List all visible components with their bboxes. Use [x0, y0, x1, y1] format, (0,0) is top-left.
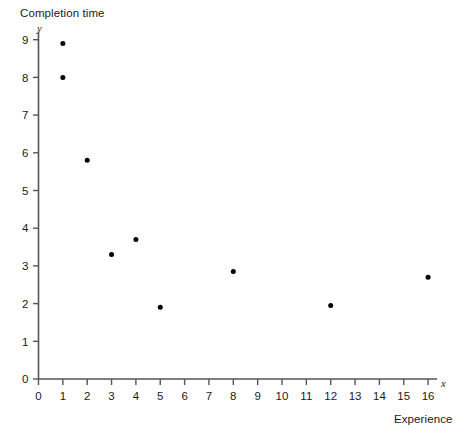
x-axis-tick-label: 3	[108, 390, 114, 402]
data-point	[328, 303, 333, 308]
y-axis-tick-label: 5	[22, 185, 28, 197]
x-axis-tick-label: 5	[157, 390, 163, 402]
x-axis-tick-label: 2	[84, 390, 90, 402]
x-axis-tick-label: 0	[35, 390, 41, 402]
x-axis-tick-label: 16	[422, 390, 435, 402]
x-axis-tick-label: 14	[373, 390, 386, 402]
y-axis-tick-label: 3	[22, 260, 28, 272]
x-axis-tick-label: 8	[230, 390, 236, 402]
x-axis-tick-label: 15	[397, 390, 410, 402]
scatter-chart: Completion time y x Experience 012345678…	[0, 0, 461, 436]
y-axis-tick-label: 9	[22, 34, 28, 46]
x-axis-tick-label: 7	[206, 390, 212, 402]
x-axis-tick-label: 12	[324, 390, 337, 402]
y-axis-tick-label: 4	[22, 222, 29, 234]
x-axis-tick-label: 13	[349, 390, 362, 402]
y-axis-tick-label: 2	[22, 298, 28, 310]
y-axis-tick-label: 8	[22, 72, 28, 84]
x-axis-tick-label: 6	[181, 390, 187, 402]
data-point	[231, 269, 236, 274]
y-axis-tick-label: 7	[22, 109, 28, 121]
y-axis: 0123456789	[22, 32, 38, 386]
data-point	[426, 275, 431, 280]
data-point	[109, 252, 114, 257]
y-axis-tick-label: 1	[22, 336, 28, 348]
y-axis-tick-label: 6	[22, 147, 28, 159]
x-axis-tick-label: 4	[133, 390, 140, 402]
x-axis: 012345678910111213141516	[35, 379, 437, 402]
x-axis-tick-label: 10	[276, 390, 289, 402]
data-point	[85, 158, 90, 163]
data-points	[60, 41, 430, 310]
x-axis-tick-label: 9	[254, 390, 260, 402]
data-point	[60, 75, 65, 80]
data-point	[158, 305, 163, 310]
x-axis-tick-label: 1	[60, 390, 66, 402]
plot-area: 0123456789 012345678910111213141516	[0, 0, 461, 436]
x-axis-tick-label: 11	[300, 390, 312, 402]
data-point	[133, 237, 138, 242]
data-point	[60, 41, 65, 46]
y-axis-tick-label: 0	[22, 373, 28, 385]
